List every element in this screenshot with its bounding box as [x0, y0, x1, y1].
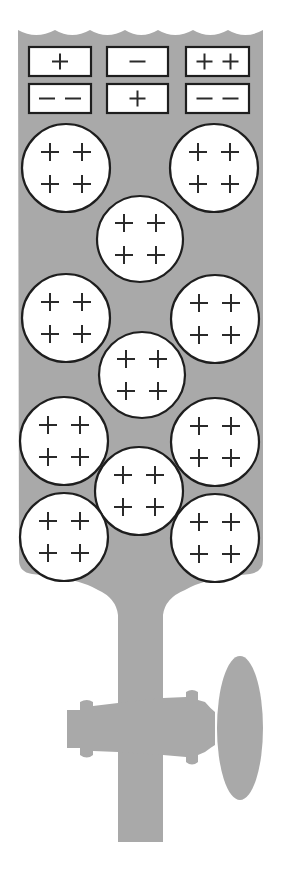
particle-circle — [171, 275, 259, 363]
stopcock — [67, 656, 263, 800]
particle-circle — [22, 274, 110, 362]
electrophoresis-column-diagram — [0, 0, 281, 871]
particle-1 — [22, 124, 110, 212]
particle-2 — [170, 124, 258, 212]
ion-3 — [186, 47, 249, 76]
ion-6 — [186, 84, 249, 113]
particle-circle — [99, 332, 185, 418]
ion-2 — [107, 47, 168, 76]
stopcock-handle-icon — [217, 656, 263, 800]
particle-circle — [170, 124, 258, 212]
particle-11 — [171, 494, 259, 582]
particle-circle — [22, 124, 110, 212]
ion-box — [29, 84, 91, 113]
particle-7 — [20, 397, 108, 485]
particle-6 — [99, 332, 185, 418]
particle-circle — [97, 196, 183, 282]
ion-box — [186, 84, 249, 113]
particle-circle — [20, 397, 108, 485]
particle-5 — [171, 275, 259, 363]
particle-4 — [22, 274, 110, 362]
ion-4 — [29, 84, 91, 113]
particle-circle — [20, 493, 108, 581]
particle-8 — [171, 398, 259, 486]
particle-circle — [171, 494, 259, 582]
particle-9 — [95, 447, 183, 535]
particle-10 — [20, 493, 108, 581]
ion-1 — [29, 47, 91, 76]
particle-circle — [171, 398, 259, 486]
stopcock-barrel — [67, 690, 215, 765]
particle-3 — [97, 196, 183, 282]
ion-5 — [107, 84, 168, 113]
ion-box — [186, 47, 249, 76]
particle-circle — [95, 447, 183, 535]
